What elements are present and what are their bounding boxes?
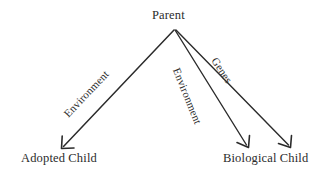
edge-line-parent-to-adopted-child: [64, 30, 175, 147]
edge-line-parent-to-biological-child-genes: [176, 30, 289, 145]
edge-parent-to-biological-child-genes: [176, 30, 292, 148]
parent-child-influence-diagram: Parent Adopted Child Biological Child En…: [0, 0, 333, 179]
node-label-biological-child: Biological Child: [223, 152, 308, 165]
arrowhead-biological-child-environment: [237, 136, 250, 148]
node-label-parent: Parent: [152, 9, 185, 22]
edge-parent-to-adopted-child: [62, 30, 175, 149]
node-label-adopted-child: Adopted Child: [21, 152, 97, 165]
